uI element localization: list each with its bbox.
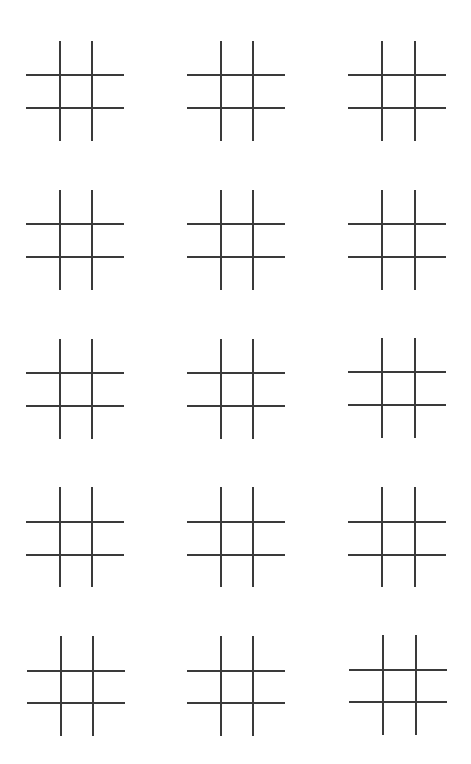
board-cell[interactable] [61, 636, 93, 668]
board-cell[interactable] [253, 703, 285, 735]
board-cell[interactable] [382, 487, 414, 519]
board-cell[interactable] [26, 522, 58, 554]
board-cell[interactable] [221, 671, 253, 703]
board-cell[interactable] [221, 257, 253, 289]
board-cell[interactable] [61, 703, 93, 735]
board-cell[interactable] [26, 224, 58, 256]
board-cell[interactable] [187, 373, 219, 405]
board-cell[interactable] [382, 555, 414, 587]
board-cell[interactable] [187, 636, 219, 668]
board-cell[interactable] [221, 75, 253, 107]
board-cell[interactable] [348, 257, 380, 289]
board-cell[interactable] [382, 75, 414, 107]
board-cell[interactable] [92, 41, 124, 73]
board-cell[interactable] [92, 522, 124, 554]
board-cell[interactable] [253, 406, 285, 438]
board-cell[interactable] [221, 555, 253, 587]
board-cell[interactable] [26, 190, 58, 222]
board-cell[interactable] [415, 487, 447, 519]
board-cell[interactable] [382, 257, 414, 289]
board-cell[interactable] [92, 339, 124, 371]
board-cell[interactable] [92, 555, 124, 587]
board-cell[interactable] [92, 257, 124, 289]
board-cell[interactable] [26, 406, 58, 438]
board-cell[interactable] [93, 671, 125, 703]
board-cell[interactable] [60, 224, 92, 256]
board-cell[interactable] [415, 405, 447, 437]
board-cell[interactable] [382, 224, 414, 256]
board-cell[interactable] [60, 487, 92, 519]
board-cell[interactable] [253, 522, 285, 554]
board-cell[interactable] [221, 108, 253, 140]
board-cell[interactable] [61, 671, 93, 703]
board-cell[interactable] [60, 108, 92, 140]
board-cell[interactable] [27, 636, 59, 668]
board-cell[interactable] [253, 190, 285, 222]
board-cell[interactable] [221, 373, 253, 405]
board-cell[interactable] [348, 338, 380, 370]
board-cell[interactable] [92, 487, 124, 519]
board-cell[interactable] [187, 224, 219, 256]
board-cell[interactable] [26, 555, 58, 587]
board-cell[interactable] [383, 635, 415, 667]
board-cell[interactable] [253, 75, 285, 107]
board-cell[interactable] [349, 702, 381, 734]
board-cell[interactable] [92, 406, 124, 438]
board-cell[interactable] [187, 406, 219, 438]
board-cell[interactable] [26, 257, 58, 289]
board-cell[interactable] [187, 522, 219, 554]
board-cell[interactable] [253, 41, 285, 73]
board-cell[interactable] [60, 555, 92, 587]
board-cell[interactable] [348, 372, 380, 404]
board-cell[interactable] [26, 41, 58, 73]
board-cell[interactable] [348, 75, 380, 107]
board-cell[interactable] [221, 339, 253, 371]
board-cell[interactable] [187, 555, 219, 587]
board-cell[interactable] [348, 41, 380, 73]
board-cell[interactable] [383, 670, 415, 702]
board-cell[interactable] [253, 636, 285, 668]
board-cell[interactable] [92, 373, 124, 405]
board-cell[interactable] [383, 702, 415, 734]
board-cell[interactable] [415, 555, 447, 587]
board-cell[interactable] [60, 406, 92, 438]
board-cell[interactable] [415, 41, 447, 73]
board-cell[interactable] [415, 338, 447, 370]
board-cell[interactable] [60, 75, 92, 107]
board-cell[interactable] [26, 373, 58, 405]
board-cell[interactable] [27, 671, 59, 703]
board-cell[interactable] [221, 190, 253, 222]
board-cell[interactable] [221, 487, 253, 519]
board-cell[interactable] [348, 405, 380, 437]
board-cell[interactable] [221, 522, 253, 554]
board-cell[interactable] [348, 487, 380, 519]
board-cell[interactable] [187, 257, 219, 289]
board-cell[interactable] [187, 41, 219, 73]
board-cell[interactable] [93, 703, 125, 735]
board-cell[interactable] [416, 702, 448, 734]
board-cell[interactable] [416, 670, 448, 702]
board-cell[interactable] [348, 108, 380, 140]
board-cell[interactable] [348, 190, 380, 222]
board-cell[interactable] [187, 703, 219, 735]
board-cell[interactable] [415, 190, 447, 222]
board-cell[interactable] [26, 108, 58, 140]
board-cell[interactable] [349, 670, 381, 702]
board-cell[interactable] [382, 522, 414, 554]
board-cell[interactable] [221, 41, 253, 73]
board-cell[interactable] [348, 224, 380, 256]
board-cell[interactable] [92, 108, 124, 140]
board-cell[interactable] [92, 190, 124, 222]
board-cell[interactable] [60, 339, 92, 371]
board-cell[interactable] [415, 75, 447, 107]
board-cell[interactable] [221, 224, 253, 256]
board-cell[interactable] [26, 339, 58, 371]
board-cell[interactable] [92, 224, 124, 256]
board-cell[interactable] [253, 108, 285, 140]
board-cell[interactable] [253, 257, 285, 289]
board-cell[interactable] [93, 636, 125, 668]
board-cell[interactable] [60, 41, 92, 73]
board-cell[interactable] [253, 339, 285, 371]
board-cell[interactable] [253, 671, 285, 703]
board-cell[interactable] [221, 703, 253, 735]
